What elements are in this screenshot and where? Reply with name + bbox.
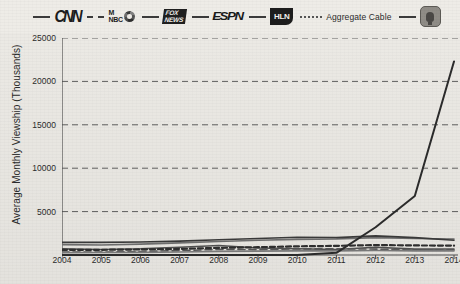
chart-legend: CNN M NBC FOX NEWS ESPN H	[0, 0, 460, 33]
series-line-podcast	[62, 61, 454, 255]
y-tick-25000: 25000	[10, 33, 56, 43]
msnbc-logo-icon: M NBC	[108, 10, 134, 23]
espn-logo-icon: ESPN	[212, 10, 243, 22]
legend-swatch-cnn	[33, 16, 50, 18]
y-tick-10000: 10000	[10, 163, 56, 173]
legend-label-aggregate-cable: Aggregate Cable	[326, 12, 391, 22]
fox-news-logo-icon: FOX NEWS	[162, 9, 187, 24]
podcast-logo-icon	[420, 6, 441, 27]
legend-item-podcast[interactable]	[399, 4, 441, 30]
legend-item-foxnews[interactable]: FOX NEWS	[142, 4, 186, 30]
legend-swatch-hln	[249, 16, 266, 18]
legend-item-espn[interactable]: ESPN	[192, 4, 242, 30]
peacock-icon	[124, 11, 135, 22]
chart-body: Average Monthly Viewship (Thousands) 250…	[0, 33, 460, 284]
legend-swatch-podcast	[399, 16, 416, 18]
plot-area	[62, 38, 454, 255]
legend-swatch-espn	[192, 16, 209, 18]
hln-logo-icon: HLN	[270, 8, 293, 25]
legend-item-hln[interactable]: HLN	[249, 4, 293, 30]
microphone-icon	[426, 12, 434, 22]
legend-swatch-foxnews	[142, 16, 159, 18]
y-tick-20000: 20000	[10, 76, 56, 86]
news-text: NEWS	[164, 17, 184, 24]
legend-item-msnbc[interactable]: M NBC	[87, 4, 134, 30]
series-line-espn	[62, 236, 454, 243]
chart-svg	[62, 38, 460, 265]
legend-item-cnn[interactable]: CNN	[33, 4, 80, 30]
y-axis-label: Average Monthly Viewship (Thousands)	[11, 35, 22, 235]
legend-item-aggregate-cable[interactable]: Aggregate Cable	[300, 4, 391, 30]
y-tick-5000: 5000	[10, 207, 56, 217]
legend-swatch-msnbc	[87, 16, 104, 18]
y-tick-15000: 15000	[10, 120, 56, 130]
msnbc-letters-nbc: NBC	[108, 17, 122, 24]
cnn-logo-icon: CNN	[54, 8, 80, 26]
chart-screenshot: CNN M NBC FOX NEWS ESPN H	[0, 0, 460, 284]
legend-swatch-aggregate-cable	[300, 16, 322, 18]
